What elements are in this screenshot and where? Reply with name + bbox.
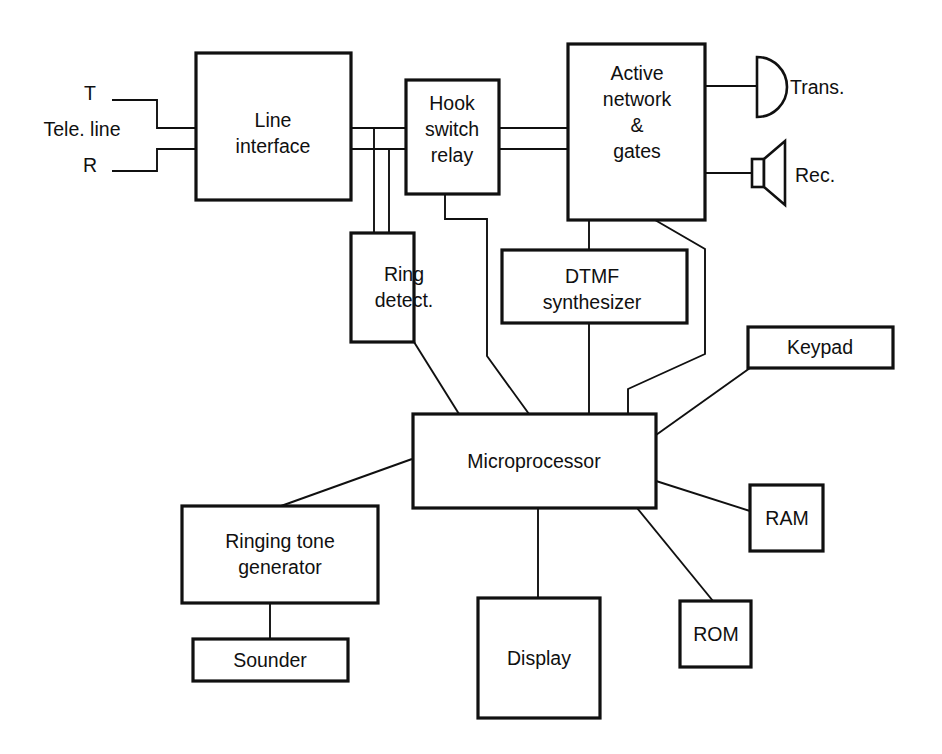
block-hook-switch-relay-label-1: switch [425,118,479,140]
block-sounder[interactable]: Sounder [193,639,348,681]
block-ringing-tone-generator-label-0: Ringing tone [225,530,335,552]
block-display-label-0: Display [507,647,571,669]
block-display[interactable]: Display [478,598,600,718]
block-microprocessor[interactable]: Microprocessor [413,414,656,508]
block-active-network-label-3: gates [613,140,661,162]
wire-tele-line-r [112,149,196,171]
wire-microprocessor-ringingtone [281,459,412,506]
block-sounder-label-0: Sounder [233,649,307,671]
block-ringing-tone-generator-label-1: generator [238,556,322,578]
block-active-network[interactable]: Active network & gates [568,44,705,220]
block-ram-label-0: RAM [765,507,808,529]
block-ring-detect-box [351,233,414,342]
block-active-network-label-1: network [603,88,672,110]
block-line-interface-label-1: interface [236,135,311,157]
wire-ringdetect-microprocessor [414,342,459,414]
wire-tele-line-t [112,100,196,128]
block-hook-switch-relay[interactable]: Hook switch relay [406,80,499,194]
block-ringing-tone-generator[interactable]: Ringing tone generator [182,506,378,603]
speaker-icon [764,141,785,205]
telephone-block-diagram: Line interface Hook switch relay Active … [0,0,942,754]
microphone-icon [757,57,787,117]
wire-microprocessor-ram [656,481,750,511]
block-ringing-tone-generator-box [182,506,378,603]
block-line-interface-label-0: Line [255,109,292,131]
block-keypad[interactable]: Keypad [748,327,893,368]
terminal-label-r: R [83,154,97,176]
block-line-interface[interactable]: Line interface [196,53,351,200]
block-rom[interactable]: ROM [680,601,751,667]
block-keypad-label-0: Keypad [787,336,853,358]
block-active-network-label-2: & [630,114,643,136]
receiver-label: Rec. [795,164,835,186]
block-dtmf-synthesizer-label-1: synthesizer [543,291,642,313]
block-ring-detect[interactable]: Ring detect. [351,233,433,342]
terminal-label-t: T [84,82,96,104]
transmitter-symbol-group[interactable]: Trans. [757,57,845,117]
receiver-symbol-group[interactable]: Rec. [752,141,835,205]
transmitter-label: Trans. [790,76,845,98]
block-microprocessor-label-0: Microprocessor [467,450,601,472]
block-dtmf-synthesizer[interactable]: DTMF synthesizer [502,250,687,323]
speaker-body-icon [752,159,764,187]
block-rom-label-0: ROM [693,623,739,645]
terminal-label-tele-line: Tele. line [44,118,121,140]
block-hook-switch-relay-label-0: Hook [429,92,475,114]
block-ram[interactable]: RAM [750,485,823,551]
block-diagram-canvas: Line interface Hook switch relay Active … [0,0,942,754]
block-hook-switch-relay-label-2: relay [431,144,474,166]
block-dtmf-synthesizer-label-0: DTMF [565,265,619,287]
block-ring-detect-label-1: detect. [375,289,434,311]
block-active-network-label-0: Active [610,62,663,84]
wire-microprocessor-rom [637,508,713,601]
block-ring-detect-label-0: Ring [384,263,424,285]
wire-keypad-microprocessor [656,368,750,435]
